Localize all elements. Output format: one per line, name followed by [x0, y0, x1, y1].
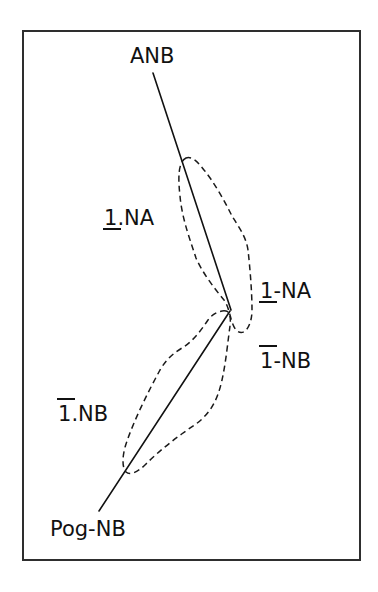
digit-lower-incisor: 1: [58, 402, 71, 426]
svg-text:1-NA: 1-NA: [260, 279, 312, 303]
digit-lower-incisor: 1: [260, 349, 273, 373]
label-upper-incisor-na-distance: 1-NA: [259, 279, 312, 303]
digit-upper-incisor: 1: [260, 279, 273, 303]
label-pog-nb: Pog-NB: [50, 517, 126, 541]
label-suffix: -NB: [273, 349, 311, 373]
label-suffix: -NA: [273, 279, 311, 303]
label-lower-incisor-nb-angle: 1.NB: [57, 399, 108, 426]
svg-text:1.NA: 1.NA: [104, 206, 155, 230]
lower-reference-line: [99, 311, 230, 511]
label-suffix: .NA: [117, 206, 154, 230]
label-upper-incisor-na-angle: 1.NA: [103, 206, 155, 230]
label-suffix: .NB: [71, 402, 108, 426]
svg-text:1.NB: 1.NB: [58, 402, 108, 426]
label-anb: ANB: [130, 44, 174, 68]
cephalometric-diagram: ANB 1.NA 1-NA 1-NB 1.NB Pog-NB: [0, 0, 378, 592]
svg-text:1-NB: 1-NB: [260, 349, 311, 373]
label-lower-incisor-nb-distance: 1-NB: [259, 346, 311, 373]
digit-upper-incisor: 1: [104, 206, 117, 230]
